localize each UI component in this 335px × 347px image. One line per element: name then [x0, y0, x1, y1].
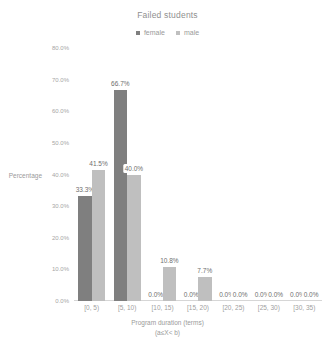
y-axis-tick-label: 30.0%: [52, 203, 69, 209]
legend-swatch-male: [176, 31, 180, 35]
y-axis-tick-label: 40.0%: [52, 172, 69, 178]
bar-group: 0.0%0.0%: [287, 48, 322, 301]
bar-slot: 66.7%: [114, 48, 128, 301]
bar-slot: 0.0%: [255, 48, 269, 301]
x-axis-tick-label: [20, 25): [222, 304, 244, 311]
bar-slot: 0.0%: [184, 48, 198, 301]
bar-group: 66.7%40.0%: [109, 48, 144, 301]
x-axis: [0, 5)[5, 10)[10, 15)[15, 20)[20, 25)[25…: [74, 304, 322, 318]
bar-female[interactable]: [78, 196, 92, 301]
legend-entry-male[interactable]: male: [176, 29, 199, 36]
legend-label-male: male: [184, 29, 199, 36]
bar-value-label: 10.8%: [159, 257, 180, 265]
legend-swatch-female: [136, 31, 140, 35]
x-axis-tick-label: [25, 30): [258, 304, 280, 311]
bar-group: 33.3%41.5%: [74, 48, 109, 301]
bar-male[interactable]: [92, 170, 106, 301]
bar-value-label: 40.0%: [123, 164, 144, 172]
bar-value-label: 7.7%: [196, 267, 214, 275]
bar-slot: 0.0%: [304, 48, 318, 301]
legend-entry-female[interactable]: female: [136, 29, 165, 36]
bar-group-bars: 0.0%10.8%: [145, 48, 180, 301]
bar-group: 0.0%0.0%: [216, 48, 251, 301]
bar-group-bars: 0.0%0.0%: [216, 48, 251, 301]
bar-group-bars: 0.0%7.7%: [180, 48, 215, 301]
bar-group: 0.0%0.0%: [251, 48, 286, 301]
x-axis-title-sub: (a≤X< b): [0, 328, 335, 338]
bar-group-bars: 0.0%0.0%: [287, 48, 322, 301]
bar-slot: 7.7%: [198, 48, 212, 301]
plot-area: 33.3%41.5%66.7%40.0%0.0%10.8%0.0%7.7%0.0…: [74, 48, 322, 301]
y-axis-title: Percentage: [9, 171, 42, 178]
bar-group: 0.0%10.8%: [145, 48, 180, 301]
y-axis-tick-label: 80.0%: [52, 45, 69, 51]
y-axis-tick-label: 50.0%: [52, 140, 69, 146]
y-axis-tick-label: 0.0%: [55, 298, 69, 304]
x-axis-tick-label: [10, 15): [152, 304, 174, 311]
x-axis-tick-label: [15, 20): [187, 304, 209, 311]
bar-group-bars: 66.7%40.0%: [109, 48, 144, 301]
bar-slot: 10.8%: [163, 48, 177, 301]
y-axis-tick-label: 70.0%: [52, 77, 69, 83]
chart-title: Failed students: [0, 10, 335, 20]
x-axis-title-main: Program duration (terms): [0, 318, 335, 328]
bar-slot: 0.0%: [220, 48, 234, 301]
bar-value-label: 0.0%: [302, 291, 320, 299]
bar-slot: 40.0%: [127, 48, 141, 301]
bar-slot: 41.5%: [92, 48, 106, 301]
bar-group-bars: 0.0%0.0%: [251, 48, 286, 301]
x-axis-title: Program duration (terms) (a≤X< b): [0, 318, 335, 338]
bar-slot: 33.3%: [78, 48, 92, 301]
bar-value-label: 0.0%: [267, 291, 285, 299]
bar-group: 0.0%7.7%: [180, 48, 215, 301]
bar-slot: 0.0%: [233, 48, 247, 301]
bar-male[interactable]: [198, 277, 212, 301]
bar-male[interactable]: [163, 267, 177, 301]
chart-legend: femalemale: [0, 29, 335, 36]
y-axis-tick-label: 10.0%: [52, 266, 69, 272]
bar-value-label: 41.5%: [88, 160, 109, 168]
x-axis-tick-label: [0, 5): [84, 304, 99, 311]
bar-male[interactable]: [127, 175, 141, 302]
legend-label-female: female: [144, 29, 165, 36]
bar-value-label: 0.0%: [231, 291, 249, 299]
bar-slot: 0.0%: [291, 48, 305, 301]
x-axis-tick-label: [30, 35): [293, 304, 315, 311]
x-axis-tick-label: [5, 10): [118, 304, 136, 311]
bar-group-bars: 33.3%41.5%: [74, 48, 109, 301]
bar-chart: Failed students femalemale 0.0%10.0%20.0…: [0, 0, 335, 347]
y-axis-tick-label: 20.0%: [52, 235, 69, 241]
bar-slot: 0.0%: [269, 48, 283, 301]
y-axis-tick-label: 60.0%: [52, 108, 69, 114]
y-axis: 0.0%10.0%20.0%30.0%40.0%Percentage50.0%6…: [0, 48, 74, 301]
bar-female[interactable]: [114, 90, 128, 301]
